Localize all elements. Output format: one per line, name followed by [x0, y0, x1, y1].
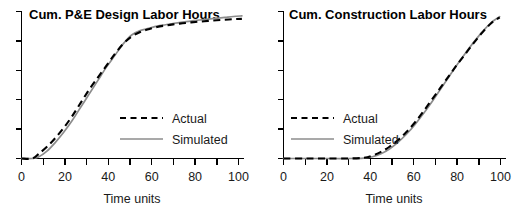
- two-panel-line-chart-figure: Cum. P&E Design Labor Hours: [0, 0, 516, 216]
- x-tick-label-80: 80: [188, 170, 202, 184]
- x-tick-label-60: 60: [407, 170, 421, 184]
- x-axis-label-left: Time units: [103, 192, 160, 206]
- x-axis-label-right: Time units: [365, 192, 422, 206]
- legend-left: Actual Simulated: [120, 112, 228, 147]
- design-labor-chart-svg: Cum. P&E Design Labor Hours: [0, 0, 258, 216]
- x-tick-label-20: 20: [320, 170, 334, 184]
- x-tick-label-0: 0: [18, 170, 25, 184]
- x-tick-label-40: 40: [101, 170, 115, 184]
- x-tick-labels-right: 0 20 40 60 80 100: [280, 170, 511, 184]
- legend-label-simulated-right: Simulated: [343, 133, 399, 147]
- chart-panel-construction-labor: Cum. Construction Labor Hours: [258, 0, 516, 216]
- legend-label-actual-left: Actual: [172, 112, 207, 126]
- construction-labor-chart-svg: Cum. Construction Labor Hours: [258, 0, 516, 216]
- y-tick-marks-right: [278, 12, 283, 159]
- chart-panel-design-labor: Cum. P&E Design Labor Hours: [0, 0, 258, 216]
- x-tick-label-20: 20: [58, 170, 72, 184]
- x-tick-label-40: 40: [363, 170, 377, 184]
- legend-right: Actual Simulated: [291, 112, 399, 147]
- x-tick-label-0: 0: [280, 170, 287, 184]
- legend-label-actual-right: Actual: [343, 112, 378, 126]
- legend-label-simulated-left: Simulated: [172, 133, 228, 147]
- x-tick-label-80: 80: [450, 170, 464, 184]
- chart-title-construction-labor: Cum. Construction Labor Hours: [289, 7, 487, 22]
- x-tick-label-100: 100: [228, 170, 249, 184]
- x-tick-label-100: 100: [490, 170, 511, 184]
- chart-title-design-labor: Cum. P&E Design Labor Hours: [29, 7, 220, 22]
- x-tick-labels-left: 0 20 40 60 80 100: [18, 170, 249, 184]
- x-tick-label-60: 60: [145, 170, 159, 184]
- y-tick-marks-left: [16, 12, 21, 159]
